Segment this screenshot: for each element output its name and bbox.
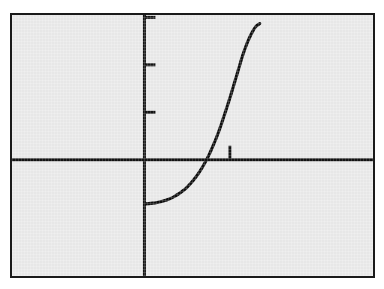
plot-canvas [12, 15, 373, 276]
exponential-curve [144, 24, 259, 204]
plot-frame [10, 13, 375, 278]
figure-root [0, 0, 384, 289]
